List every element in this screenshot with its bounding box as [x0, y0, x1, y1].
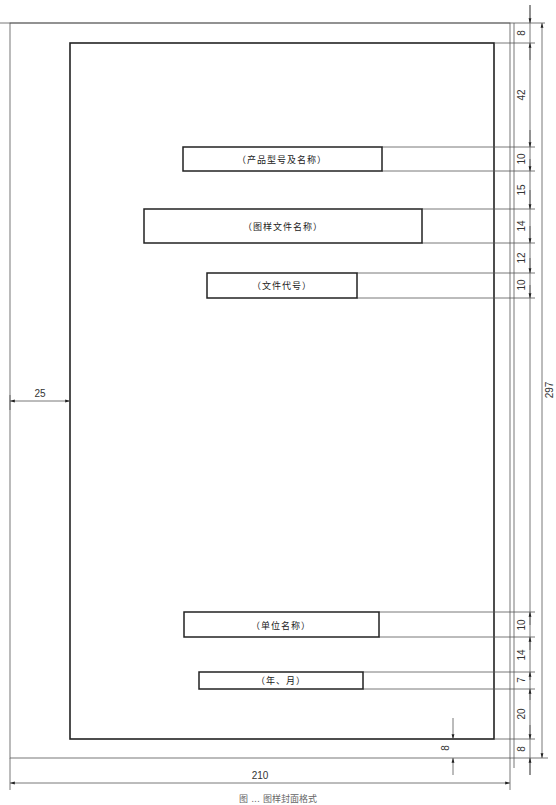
dim-20: 20	[516, 708, 527, 719]
dim-top-8: 8	[516, 30, 527, 36]
dim-42: 42	[516, 89, 527, 100]
dim-10a: 10	[516, 153, 527, 164]
dim-10b: 10	[516, 279, 527, 290]
dim-297: 297	[544, 382, 555, 399]
dim-bottom-8: 8	[516, 746, 527, 752]
label-product: （产品型号及名称）	[237, 153, 327, 166]
dim-7: 7	[516, 677, 527, 683]
dim-25: 25	[34, 388, 45, 399]
label-drawing: （图样文件名称）	[243, 220, 323, 233]
page-border	[10, 23, 510, 758]
dim-14a: 14	[516, 220, 527, 231]
dim-14b: 14	[516, 649, 527, 660]
dim-10c: 10	[516, 619, 527, 630]
dim-12: 12	[516, 252, 527, 263]
dim-15: 15	[516, 184, 527, 195]
label-date: （年、月）	[256, 674, 306, 687]
dim-inner-8: 8	[440, 745, 451, 751]
label-company: （单位名称）	[251, 619, 311, 632]
dim-210: 210	[252, 770, 269, 781]
figure-caption: 图 ... 图样封面格式	[239, 792, 316, 805]
label-doc-code: （文件代号）	[252, 279, 312, 292]
